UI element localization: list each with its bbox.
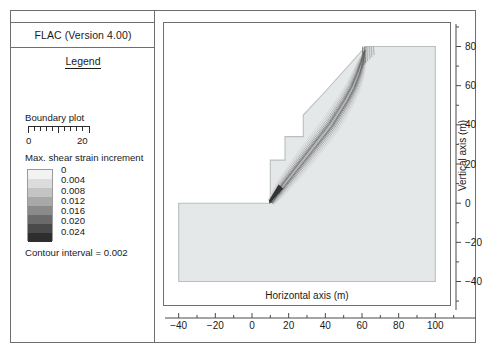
swatch-band-3 (28, 197, 52, 206)
contour-value-list: 00.0040.0080.0120.0160.0200.024 (61, 165, 141, 237)
scale-bar-icon (28, 126, 90, 134)
swatch-band-1 (28, 179, 52, 188)
contour-legend: 00.0040.0080.0120.0160.0200.024 (25, 169, 151, 245)
contour-value: 0.024 (61, 227, 141, 237)
swatch-band-5 (28, 215, 52, 224)
contour-title: Max. shear strain increment (25, 152, 151, 163)
flac-plot-window: FLAC (Version 4.00) Legend Boundary plot… (0, 0, 488, 354)
model-boundary (179, 47, 436, 282)
contour-color-swatch (27, 169, 53, 241)
legend-heading: Legend (11, 55, 155, 67)
swatch-band-7 (28, 233, 52, 242)
slope-stability-contour-plot (164, 23, 450, 305)
swatch-band-2 (28, 188, 52, 197)
swatch-band-6 (28, 224, 52, 233)
y-axis-title: Vertical axis (m) (457, 111, 468, 201)
swatch-band-4 (28, 206, 52, 215)
boundary-plot-label: Boundary plot (25, 112, 151, 123)
scale-bar-labels: 0 20 (25, 135, 99, 147)
window-title: FLAC (Version 4.00) (34, 29, 131, 41)
swatch-band-0 (28, 170, 52, 179)
contour-interval-label: Contour interval = 0.002 (25, 247, 151, 258)
scale-min-label: 0 (26, 135, 31, 146)
title-box: FLAC (Version 4.00) (11, 22, 155, 48)
legend-content: Boundary plot 0 20 Max. shear strain inc… (25, 112, 151, 258)
x-axis-title: Horizontal axis (m) (163, 290, 451, 301)
scale-max-label: 20 (77, 135, 88, 146)
plot-frame (163, 22, 451, 306)
